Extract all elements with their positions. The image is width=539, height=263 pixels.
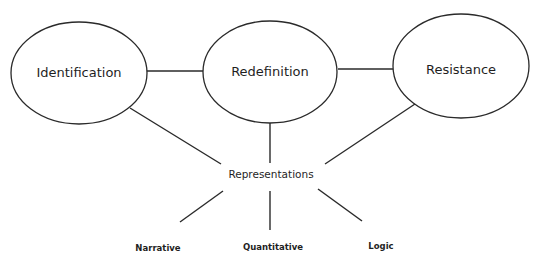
- label-representations: Representations: [228, 168, 313, 180]
- edge-identification-representations: [130, 108, 221, 164]
- edge-representations-narrative: [180, 191, 223, 222]
- label-narrative: Narrative: [135, 243, 180, 253]
- label-resistance: Resistance: [426, 62, 496, 77]
- node-resistance: Resistance: [393, 14, 529, 118]
- node-redefinition: Redefinition: [203, 21, 337, 123]
- label-logic: Logic: [368, 241, 393, 251]
- node-identification: Identification: [11, 22, 147, 124]
- edge-representations-logic: [318, 189, 362, 221]
- label-redefinition: Redefinition: [231, 64, 309, 79]
- edge-resistance-representations: [325, 104, 415, 164]
- label-quantitative: Quantitative: [243, 242, 303, 252]
- label-identification: Identification: [36, 65, 121, 80]
- diagram-canvas: Identification Redefinition Resistance R…: [0, 0, 539, 263]
